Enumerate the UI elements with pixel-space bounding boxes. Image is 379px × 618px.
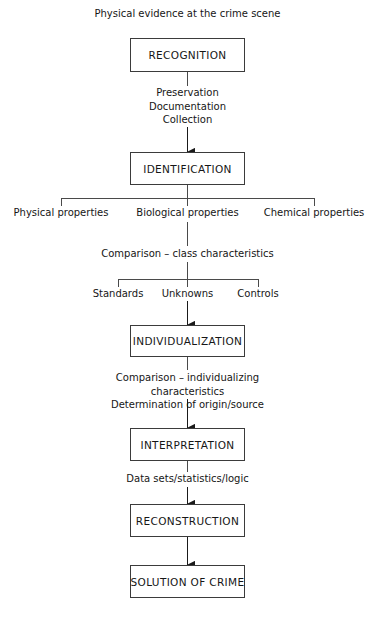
branch-label-physical-properties: Physical properties	[14, 206, 109, 219]
branch-label-biological-properties: Biological properties	[136, 206, 238, 219]
branch-label-standards: Standards	[93, 287, 144, 300]
connector-label-comparison-individualizing: Comparison – individualizing characteris…	[92, 371, 284, 412]
connector-label-preservation: Preservation Documentation Collection	[149, 86, 226, 127]
node-individualization[interactable]: INDIVIDUALIZATION	[130, 325, 245, 357]
node-recognition[interactable]: RECOGNITION	[130, 38, 245, 72]
node-reconstruction[interactable]: RECONSTRUCTION	[130, 504, 245, 537]
branch-label-controls: Controls	[237, 287, 278, 300]
flowchart-content: Physical evidence at the crime scene REC…	[0, 0, 379, 618]
node-interpretation[interactable]: INTERPRETATION	[130, 428, 245, 461]
branch-label-chemical-properties: Chemical properties	[264, 206, 365, 219]
branch-label-unknowns: Unknowns	[162, 287, 214, 300]
connector-label-data-sets: Data sets/statistics/logic	[126, 472, 248, 486]
node-solution-of-crime[interactable]: SOLUTION OF CRIME	[130, 565, 245, 598]
connector-label-comparison-class: Comparison – class characteristics	[101, 247, 274, 261]
node-identification[interactable]: IDENTIFICATION	[130, 152, 245, 185]
diagram-title: Physical evidence at the crime scene	[94, 8, 280, 19]
